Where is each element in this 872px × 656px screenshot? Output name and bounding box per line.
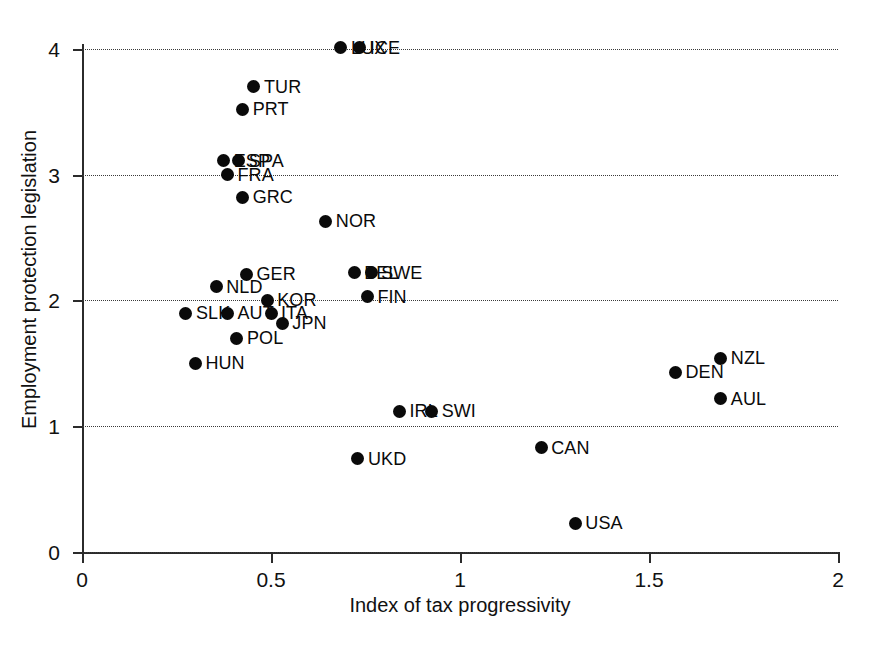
x-tick-2 xyxy=(838,552,840,563)
data-point-fra xyxy=(221,168,234,181)
x-tick-label-1: 1 xyxy=(454,569,466,590)
data-point-label-swe: SWE xyxy=(381,264,422,282)
gridline-y-3 xyxy=(82,175,838,176)
data-point-lux xyxy=(334,41,347,54)
data-point-swe xyxy=(365,266,378,279)
x-tick-0 xyxy=(82,552,84,563)
y-tick-label-4: 4 xyxy=(48,38,60,59)
x-tick-label-0.5: 0.5 xyxy=(256,569,285,590)
x-tick-label-0: 0 xyxy=(76,569,88,590)
data-point-slk xyxy=(179,307,192,320)
y-axis-title: Employment protection legislation xyxy=(18,65,41,495)
data-point-grc xyxy=(236,191,249,204)
data-point-label-tur: TUR xyxy=(264,78,301,96)
data-point-aul xyxy=(714,392,727,405)
y-tick-label-3: 3 xyxy=(48,164,60,185)
data-point-label-nor: NOR xyxy=(336,212,376,230)
data-point-label-jpn: JPN xyxy=(292,314,326,332)
data-point-label-usa: USA xyxy=(585,514,622,532)
data-point-label-fin: FIN xyxy=(377,288,406,306)
x-tick-1 xyxy=(460,552,462,563)
scatter-chart-figure: Employment protection legislation Index … xyxy=(0,0,872,656)
y-tick-label-2: 2 xyxy=(48,290,60,311)
plot-area: 01234 00.511.52 LUXICETURPRTESPSPAFRAGRC… xyxy=(82,30,838,552)
data-point-usa xyxy=(569,517,582,530)
data-point-prt xyxy=(236,103,249,116)
data-point-label-aul: AUL xyxy=(731,390,766,408)
y-axis-line xyxy=(82,44,84,552)
data-point-hun xyxy=(189,357,202,370)
data-point-bel xyxy=(348,266,361,279)
data-point-label-nld: NLD xyxy=(226,278,262,296)
data-point-label-grc: GRC xyxy=(253,188,293,206)
gridline-y-2 xyxy=(82,300,838,301)
data-point-label-hun: HUN xyxy=(205,354,244,372)
data-point-tur xyxy=(247,80,260,93)
x-tick-label-1.5: 1.5 xyxy=(634,569,663,590)
y-tick-2: 2 xyxy=(73,300,83,302)
data-point-label-prt: PRT xyxy=(253,100,289,118)
data-point-pol xyxy=(230,332,243,345)
data-point-nor xyxy=(319,215,332,228)
x-tick-0.5 xyxy=(271,552,273,563)
gridline-y-1 xyxy=(82,426,838,427)
data-point-irl xyxy=(393,405,406,418)
data-point-label-can: CAN xyxy=(551,439,589,457)
data-point-fin xyxy=(361,290,374,303)
data-point-label-swi: SWI xyxy=(442,402,476,420)
data-point-ukd xyxy=(351,452,364,465)
data-point-aut xyxy=(221,307,234,320)
y-tick-1: 1 xyxy=(73,426,83,428)
data-point-esp xyxy=(217,154,230,167)
data-point-can xyxy=(535,441,548,454)
data-point-nld xyxy=(210,280,223,293)
data-point-swi xyxy=(425,405,438,418)
gridline-y-4 xyxy=(82,49,838,50)
y-tick-label-1: 1 xyxy=(48,416,60,437)
data-point-label-pol: POL xyxy=(247,329,283,347)
x-tick-label-2: 2 xyxy=(832,569,844,590)
data-point-den xyxy=(669,366,682,379)
data-point-label-nzl: NZL xyxy=(731,349,765,367)
y-tick-label-0: 0 xyxy=(48,542,60,563)
data-point-label-ice: ICE xyxy=(370,39,400,57)
data-point-label-fra: FRA xyxy=(238,166,274,184)
x-axis-title: Index of tax progressivity xyxy=(82,594,838,617)
data-point-label-den: DEN xyxy=(685,363,723,381)
data-point-ita xyxy=(265,307,278,320)
y-tick-4: 4 xyxy=(73,49,83,51)
y-tick-3: 3 xyxy=(73,175,83,177)
data-point-label-ukd: UKD xyxy=(368,450,406,468)
x-tick-1.5 xyxy=(649,552,651,563)
